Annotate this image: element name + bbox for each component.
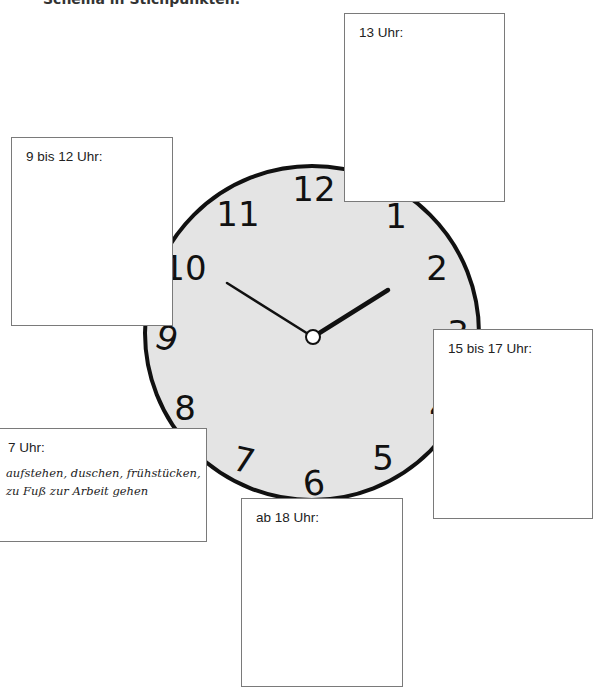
box-label: 15 bis 17 Uhr: bbox=[448, 341, 532, 356]
numeral-5: 5 bbox=[372, 438, 394, 478]
numeral-1: 1 bbox=[385, 196, 407, 236]
clock-center-pin bbox=[306, 330, 320, 344]
box-7-uhr[interactable]: 7 Uhr: aufstehen, duschen, frühstücken, … bbox=[0, 428, 207, 542]
handwritten-answer: aufstehen, duschen, frühstücken, zu Fuß … bbox=[6, 464, 201, 500]
answer-line-2: zu Fuß zur Arbeit gehen bbox=[6, 482, 201, 500]
box-label: 7 Uhr: bbox=[8, 440, 45, 455]
numeral-11: 11 bbox=[216, 194, 259, 234]
box-13-uhr[interactable]: 13 Uhr: bbox=[344, 13, 505, 202]
box-label: ab 18 Uhr: bbox=[256, 510, 319, 525]
box-label: 13 Uhr: bbox=[359, 25, 403, 40]
answer-line-1: aufstehen, duschen, frühstücken, bbox=[6, 464, 201, 482]
numeral-12: 12 bbox=[292, 169, 335, 209]
box-ab-18-uhr[interactable]: ab 18 Uhr: bbox=[241, 498, 403, 687]
numeral-8: 8 bbox=[174, 388, 196, 428]
box-9-bis-12-uhr[interactable]: 9 bis 12 Uhr: bbox=[11, 137, 173, 326]
box-15-bis-17-uhr[interactable]: 15 bis 17 Uhr: bbox=[433, 329, 593, 519]
box-label: 9 bis 12 Uhr: bbox=[26, 149, 103, 164]
numeral-2: 2 bbox=[426, 248, 448, 288]
